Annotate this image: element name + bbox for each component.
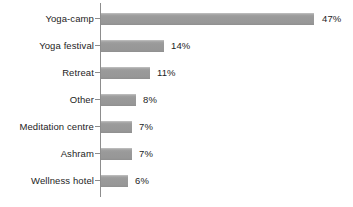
- bar: [101, 67, 150, 79]
- bar-row: Wellness hotel 6%: [0, 170, 353, 192]
- category-label: Retreat: [62, 62, 94, 84]
- category-label: Wellness hotel: [31, 170, 94, 192]
- category-label: Meditation centre: [19, 116, 94, 138]
- bar: [101, 13, 314, 25]
- bar: [101, 121, 132, 133]
- category-label: Yoga-camp: [45, 8, 94, 30]
- bar-value-label: 7%: [139, 121, 153, 133]
- category-label: Yoga festival: [39, 35, 94, 57]
- plot-area: Yoga-camp 47% Yoga festival 14% Retreat …: [0, 0, 353, 207]
- bar-value-label: 11%: [157, 67, 176, 79]
- bar: [101, 175, 128, 187]
- bar-value-label: 8%: [143, 94, 157, 106]
- bar-row: Yoga-camp 47%: [0, 8, 353, 30]
- bar-value-label: 7%: [139, 148, 153, 160]
- bar-value-label: 14%: [171, 40, 190, 52]
- bar-value-label: 6%: [135, 175, 149, 187]
- bar: [101, 40, 164, 52]
- bar-row: Retreat 11%: [0, 62, 353, 84]
- bar-row: Yoga festival 14%: [0, 35, 353, 57]
- bar-chart: Yoga-camp 47% Yoga festival 14% Retreat …: [0, 0, 353, 207]
- category-label: Ashram: [61, 143, 94, 165]
- bar: [101, 94, 136, 106]
- bar-row: Ashram 7%: [0, 143, 353, 165]
- bar-value-label: 47%: [322, 13, 341, 25]
- bar-row: Other 8%: [0, 89, 353, 111]
- bar-row: Meditation centre 7%: [0, 116, 353, 138]
- bar: [101, 148, 132, 160]
- category-label: Other: [70, 89, 94, 111]
